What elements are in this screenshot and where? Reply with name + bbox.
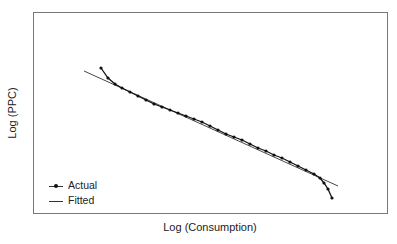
data-point-marker xyxy=(208,124,211,127)
data-point-marker xyxy=(322,181,325,184)
data-point-marker xyxy=(144,98,147,101)
data-point-marker xyxy=(272,153,275,156)
data-point-marker xyxy=(288,160,291,163)
data-point-marker xyxy=(256,146,259,149)
data-point-marker xyxy=(232,135,235,138)
data-point-marker xyxy=(296,164,299,167)
legend: Actual Fitted xyxy=(48,178,97,208)
data-point-marker xyxy=(106,76,109,79)
data-point-marker xyxy=(216,128,219,131)
legend-label-actual: Actual xyxy=(68,178,97,193)
data-point-marker xyxy=(160,105,163,108)
data-point-marker xyxy=(99,66,102,69)
data-point-marker xyxy=(184,114,187,117)
data-point-marker xyxy=(152,102,155,105)
y-axis-label: Log (PPC) xyxy=(6,87,18,138)
data-point-marker xyxy=(136,94,139,97)
data-point-marker xyxy=(240,138,243,141)
data-point-marker xyxy=(326,187,329,190)
data-point-marker xyxy=(200,120,203,123)
data-point-marker xyxy=(318,176,321,179)
data-point-marker xyxy=(113,82,116,85)
data-point-marker xyxy=(120,86,123,89)
data-point-marker xyxy=(192,117,195,120)
data-point-marker xyxy=(224,132,227,135)
data-point-marker xyxy=(264,149,267,152)
legend-label-fitted: Fitted xyxy=(68,193,94,208)
data-point-marker xyxy=(128,90,131,93)
data-point-marker xyxy=(304,168,307,171)
data-point-marker xyxy=(330,196,333,199)
line-marker-icon xyxy=(48,196,64,206)
legend-item-fitted: Fitted xyxy=(48,193,97,208)
line-dot-marker-icon xyxy=(48,181,64,191)
legend-item-actual: Actual xyxy=(48,178,97,193)
actual-series-line xyxy=(101,68,332,198)
data-point-marker xyxy=(280,156,283,159)
data-point-marker xyxy=(176,111,179,114)
x-axis-label: Log (Consumption) xyxy=(0,221,397,233)
data-point-marker xyxy=(312,172,315,175)
data-point-marker xyxy=(168,108,171,111)
data-point-marker xyxy=(248,142,251,145)
actual-series-markers xyxy=(99,66,333,199)
